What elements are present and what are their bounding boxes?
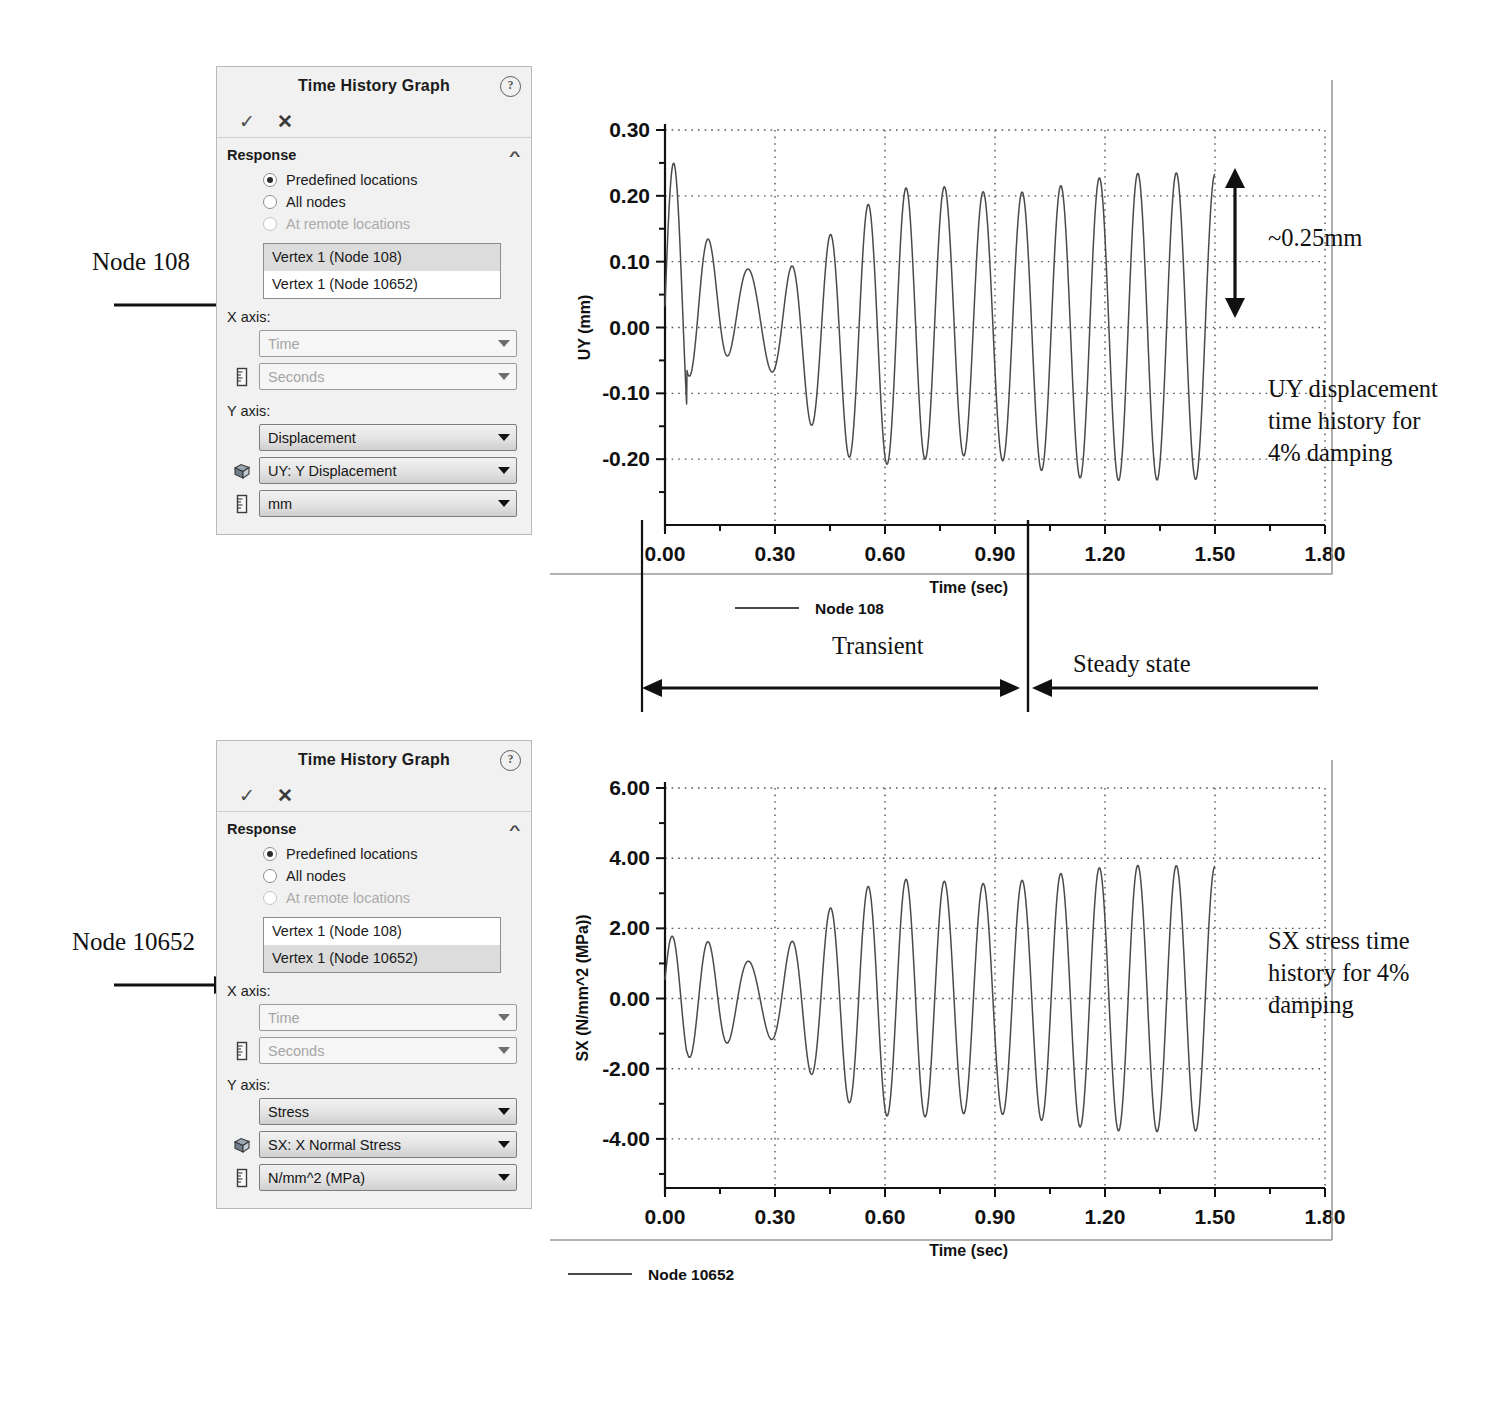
svg-text:2.00: 2.00 — [609, 916, 650, 939]
radio-all-nodes[interactable]: All nodes — [217, 865, 531, 887]
x-axis-label: X axis: — [217, 299, 531, 327]
svg-text:Time (sec): Time (sec) — [929, 1242, 1008, 1259]
radio-icon — [263, 173, 277, 187]
y-unit-value: mm — [268, 496, 492, 512]
y-component-select[interactable]: UY: Y Displacement — [259, 457, 517, 484]
y-unit-select[interactable]: N/mm^2 (MPa) — [259, 1164, 517, 1191]
chevron-down-icon — [498, 1014, 510, 1021]
chevron-down-icon — [498, 1047, 510, 1054]
y-component-value: UY: Y Displacement — [268, 463, 492, 479]
help-icon[interactable]: ? — [500, 76, 521, 97]
sx-note-text: SX stress timehistory for 4%damping — [1268, 925, 1483, 1021]
svg-text:-0.20: -0.20 — [602, 447, 650, 470]
y-quantity-row: Displacement — [217, 421, 531, 454]
help-icon[interactable]: ? — [500, 750, 521, 771]
cube-icon — [231, 460, 253, 482]
locations-listbox[interactable]: Vertex 1 (Node 108) Vertex 1 (Node 10652… — [263, 917, 501, 973]
svg-text:UY (mm): UY (mm) — [576, 295, 593, 361]
chevron-up-icon[interactable]: ^ — [510, 148, 521, 163]
svg-text:0.10: 0.10 — [609, 250, 650, 273]
transient-label: Transient — [832, 630, 924, 662]
time-history-graph-panel[interactable]: Time History Graph ? ✓ ✕ Response ^ Pred… — [216, 740, 532, 1209]
panel-footer-spacer — [217, 1194, 531, 1208]
chevron-down-icon — [498, 373, 510, 380]
y-quantity-select[interactable]: Stress — [259, 1098, 517, 1125]
chevron-down-icon — [498, 1174, 510, 1181]
svg-text:0.30: 0.30 — [609, 118, 650, 141]
y-unit-select[interactable]: mm — [259, 490, 517, 517]
y-component-select[interactable]: SX: X Normal Stress — [259, 1131, 517, 1158]
panel-footer-spacer — [217, 520, 531, 534]
cancel-button[interactable]: ✕ — [277, 112, 293, 131]
radio-label: All nodes — [286, 868, 346, 884]
svg-text:Node 10652: Node 10652 — [648, 1266, 734, 1283]
ruler-icon — [231, 366, 253, 388]
radio-label: Predefined locations — [286, 846, 417, 862]
list-item[interactable]: Vertex 1 (Node 10652) — [264, 945, 500, 972]
panel-action-bar: ✓ ✕ — [217, 779, 531, 812]
panel-title-bar: Time History Graph ? — [217, 67, 531, 105]
chevron-down-icon — [498, 1141, 510, 1148]
panel-title: Time History Graph — [298, 751, 450, 769]
list-item[interactable]: Vertex 1 (Node 10652) — [264, 271, 500, 298]
chevron-down-icon — [498, 434, 510, 441]
x-axis-label: X axis: — [217, 973, 531, 1001]
svg-text:4.00: 4.00 — [609, 846, 650, 869]
radio-predefined-locations[interactable]: Predefined locations — [217, 843, 531, 865]
y-quantity-select[interactable]: Displacement — [259, 424, 517, 451]
response-radio-group: Predefined locations All nodes At remote… — [217, 843, 531, 909]
time-history-graph-panel[interactable]: Time History Graph ? ✓ ✕ Response ^ Pred… — [216, 66, 532, 535]
radio-predefined-locations[interactable]: Predefined locations — [217, 169, 531, 191]
response-section-header[interactable]: Response ^ — [217, 812, 531, 843]
x-unit-row: Seconds — [217, 360, 531, 393]
x-unit-value: Seconds — [268, 1043, 492, 1059]
svg-text:0.00: 0.00 — [609, 987, 650, 1010]
svg-text:0.30: 0.30 — [755, 1205, 796, 1228]
x-quantity-select[interactable]: Time — [259, 330, 517, 357]
y-quantity-row: Stress — [217, 1095, 531, 1128]
x-quantity-select[interactable]: Time — [259, 1004, 517, 1031]
confirm-button[interactable]: ✓ — [239, 112, 255, 131]
ruler-icon — [231, 1167, 253, 1189]
radio-icon — [263, 195, 277, 209]
panel-title: Time History Graph — [298, 77, 450, 95]
radio-icon — [263, 869, 277, 883]
radio-label: All nodes — [286, 194, 346, 210]
chevron-up-icon[interactable]: ^ — [510, 822, 521, 837]
amplitude-label: ~0.25mm — [1268, 222, 1362, 254]
svg-text:0.60: 0.60 — [865, 1205, 906, 1228]
sx-chart-svg: 0.000.300.600.901.201.501.80-4.00-2.000.… — [550, 760, 1340, 1360]
radio-label: At remote locations — [286, 216, 410, 232]
locations-listbox[interactable]: Vertex 1 (Node 108) Vertex 1 (Node 10652… — [263, 243, 501, 299]
radio-all-nodes[interactable]: All nodes — [217, 191, 531, 213]
response-section-title: Response — [227, 147, 296, 163]
svg-text:-4.00: -4.00 — [602, 1127, 650, 1150]
x-quantity-value: Time — [268, 1010, 492, 1026]
svg-text:6.00: 6.00 — [609, 776, 650, 799]
x-unit-select[interactable]: Seconds — [259, 1037, 517, 1064]
svg-text:-2.00: -2.00 — [602, 1057, 650, 1080]
radio-label: Predefined locations — [286, 172, 417, 188]
confirm-button[interactable]: ✓ — [239, 786, 255, 805]
uy-note-text: UY displacementtime history for4% dampin… — [1268, 373, 1483, 469]
cube-icon — [231, 1134, 253, 1156]
list-item[interactable]: Vertex 1 (Node 108) — [264, 244, 500, 271]
ruler-icon — [231, 1040, 253, 1062]
list-item[interactable]: Vertex 1 (Node 108) — [264, 918, 500, 945]
radio-label: At remote locations — [286, 890, 410, 906]
radio-at-remote-locations: At remote locations — [217, 887, 531, 909]
panel-action-bar: ✓ ✕ — [217, 105, 531, 138]
response-section-header[interactable]: Response ^ — [217, 138, 531, 169]
y-component-value: SX: X Normal Stress — [268, 1137, 492, 1153]
y-unit-row: N/mm^2 (MPa) — [217, 1161, 531, 1194]
ruler-icon — [231, 493, 253, 515]
x-unit-select[interactable]: Seconds — [259, 363, 517, 390]
svg-text:1.80: 1.80 — [1305, 1205, 1346, 1228]
cancel-button[interactable]: ✕ — [277, 786, 293, 805]
amplitude-annotation — [1215, 168, 1255, 318]
radio-icon — [263, 891, 277, 905]
svg-text:0.00: 0.00 — [645, 1205, 686, 1228]
x-quantity-row: Time — [217, 327, 531, 360]
svg-text:0.90: 0.90 — [975, 1205, 1016, 1228]
double-arrow-icon — [1215, 168, 1255, 318]
